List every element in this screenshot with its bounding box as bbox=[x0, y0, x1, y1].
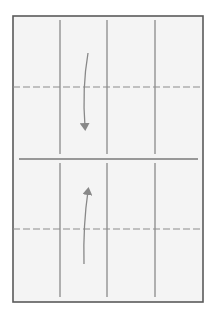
origami-diagram bbox=[0, 0, 216, 315]
